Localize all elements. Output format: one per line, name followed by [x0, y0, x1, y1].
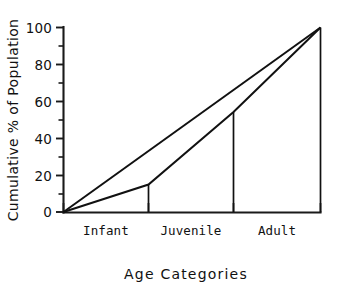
y-axis-title: Cumulative % of Population — [5, 19, 21, 222]
x-category-label-infant: Infant — [83, 223, 129, 238]
y-tick-label-100: 100 — [26, 20, 52, 36]
chart-figure: 100 80 60 40 20 0 Infant Juvenile Adult — [0, 0, 341, 300]
y-tick-label-20: 20 — [34, 168, 52, 184]
x-category-label-juvenile: Juvenile — [160, 223, 221, 238]
y-tick-label-80: 80 — [34, 57, 52, 73]
cumulative-population-chart: 100 80 60 40 20 0 Infant Juvenile Adult — [0, 0, 341, 300]
y-tick-label-60: 60 — [34, 94, 52, 110]
x-axis-title: Age Categories — [124, 266, 248, 282]
y-tick-label-0: 0 — [43, 204, 52, 220]
x-category-label-adult: Adult — [258, 223, 296, 238]
y-tick-label-40: 40 — [34, 131, 52, 147]
chart-background — [0, 0, 341, 300]
